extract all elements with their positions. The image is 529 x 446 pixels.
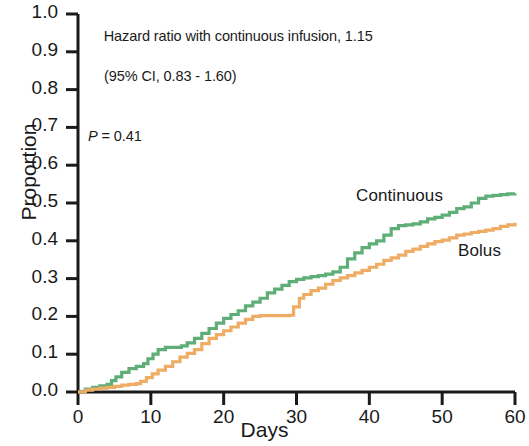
p-value-number: = 0.41: [98, 128, 142, 144]
y-tick-label: 1.0: [0, 1, 58, 23]
annotation-line-hazard-ratio: Hazard ratio with continuous infusion, 1…: [104, 28, 373, 44]
x-tick-label: 30: [267, 406, 327, 428]
kaplan-meier-figure: Hazard ratio with continuous infusion, 1…: [0, 0, 529, 446]
x-tick-label: 50: [412, 406, 472, 428]
x-tick-label: 10: [121, 406, 181, 428]
x-tick-label: 20: [194, 406, 254, 428]
y-tick-label: 0.5: [0, 190, 58, 212]
x-tick-label: 60: [485, 406, 529, 428]
x-tick-label: 40: [339, 406, 399, 428]
series-label-bolus: Bolus: [458, 241, 501, 261]
x-axis-ticks: [78, 392, 515, 405]
y-tick-label: 0.4: [0, 228, 58, 250]
series-label-continuous: Continuous: [356, 186, 443, 206]
x-tick-label: 0: [48, 406, 108, 428]
y-tick-label: 0.8: [0, 77, 58, 99]
y-tick-label: 0.2: [0, 303, 58, 325]
y-axis-ticks: [66, 14, 78, 392]
series-curve-continuous: [78, 194, 515, 392]
y-tick-label: 0.1: [0, 341, 58, 363]
y-tick-label: 0.7: [0, 114, 58, 136]
y-tick-label: 0.3: [0, 266, 58, 288]
data-series-group: [78, 194, 515, 392]
y-tick-label: 0.6: [0, 152, 58, 174]
annotation-line-p-value: P = 0.41: [88, 126, 373, 146]
y-tick-label: 0.0: [0, 379, 58, 401]
y-tick-label: 0.9: [0, 39, 58, 61]
p-value-symbol: P: [88, 128, 98, 144]
statistics-annotation: Hazard ratio with continuous infusion, 1…: [88, 6, 373, 186]
annotation-line-confidence-interval: (95% CI, 0.83 - 1.60): [88, 66, 373, 86]
